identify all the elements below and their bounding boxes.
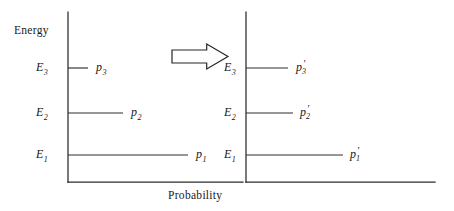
left-label-E1: E1	[36, 148, 47, 160]
right-panel-axes	[246, 12, 435, 182]
left-panel-levels	[68, 68, 188, 155]
right-label-p3-prime: p′3	[296, 61, 307, 73]
left-label-p1: p1	[196, 148, 206, 160]
left-label-p2: p2	[131, 106, 141, 118]
left-label-E2: E2	[36, 106, 47, 118]
right-label-E3: E3	[224, 61, 235, 73]
left-label-E3: E3	[36, 61, 47, 73]
left-label-p3: p3	[96, 61, 106, 73]
energy-probability-figure: Energy Probability E3 E2 E1	[0, 0, 454, 211]
right-label-p1-prime: p′1	[350, 148, 361, 160]
right-label-p2-prime: p′2	[300, 106, 311, 118]
transition-arrow-icon	[172, 44, 228, 69]
right-label-E1: E1	[224, 148, 235, 160]
right-panel-levels	[246, 68, 343, 155]
right-label-E2: E2	[224, 106, 235, 118]
left-panel-axes	[68, 12, 243, 182]
